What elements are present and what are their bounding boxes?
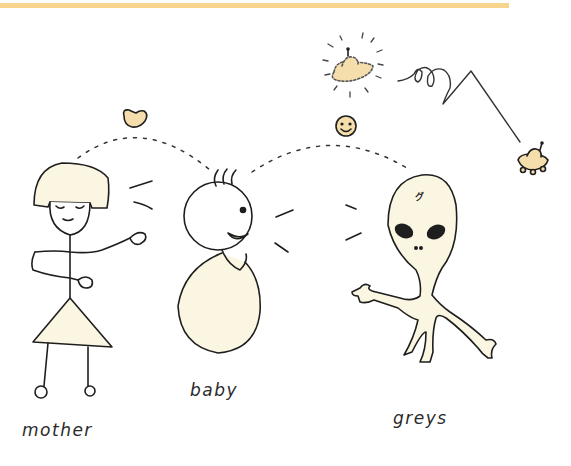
dashed-arc-mother-baby xyxy=(78,138,210,170)
ufo-flight-path xyxy=(398,67,520,142)
heart-icon xyxy=(124,110,147,127)
glowing-ufo-icon xyxy=(323,33,383,97)
label-mother: mother xyxy=(22,420,93,440)
small-ufo-icon xyxy=(518,142,548,175)
label-greys: greys xyxy=(393,408,448,428)
baby-body xyxy=(178,253,260,353)
mother-hair xyxy=(34,163,109,208)
mother-figure xyxy=(32,163,146,398)
baby-head xyxy=(184,182,252,250)
sound-lines-baby xyxy=(275,210,293,252)
label-baby: baby xyxy=(190,380,238,400)
mother-skirt xyxy=(33,298,112,347)
greys-forehead-mark: グ xyxy=(415,190,424,203)
smiley-icon xyxy=(336,116,356,136)
sound-lines-mother xyxy=(130,181,152,209)
illustration-canvas xyxy=(0,0,571,466)
greys-figure xyxy=(352,175,496,362)
dashed-arc-baby-greys xyxy=(252,145,410,172)
sound-lines-greys xyxy=(346,205,361,240)
greys-body xyxy=(352,175,496,362)
baby-figure xyxy=(178,169,260,353)
